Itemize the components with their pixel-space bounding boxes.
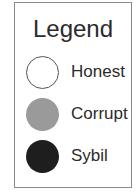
legend-label-honest: Honest bbox=[71, 62, 125, 82]
legend-item-sybil: Sybil bbox=[26, 139, 108, 173]
legend-title: Legend bbox=[15, 15, 131, 43]
legend-box: Legend Honest Corrupt Sybil bbox=[14, 2, 132, 188]
sybil-circle-icon bbox=[26, 140, 59, 173]
legend-label-sybil: Sybil bbox=[71, 146, 108, 166]
honest-circle-icon bbox=[26, 56, 59, 89]
corrupt-circle-icon bbox=[26, 98, 59, 131]
legend-label-corrupt: Corrupt bbox=[71, 104, 128, 124]
legend-item-corrupt: Corrupt bbox=[26, 97, 128, 131]
legend-item-honest: Honest bbox=[26, 55, 125, 89]
